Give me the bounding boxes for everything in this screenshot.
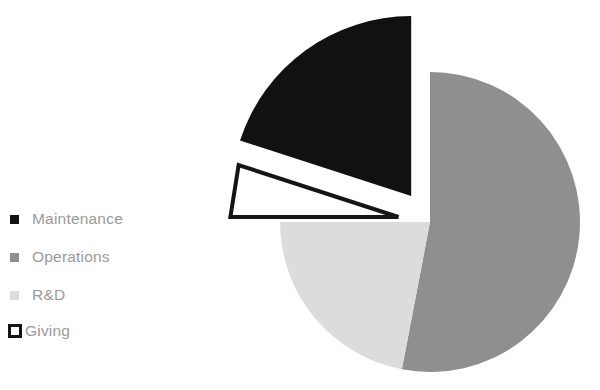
chart-legend: Maintenance Operations R&D Giving [6,200,196,348]
pie-chart: Maintenance Operations R&D Giving [0,0,600,390]
legend-label-rd: R&D [32,286,65,304]
legend-item-operations[interactable]: Operations [6,238,196,276]
legend-item-maintenance[interactable]: Maintenance [6,200,196,238]
legend-swatch-maintenance-icon [10,215,19,224]
pie-slice-maintenance[interactable] [240,16,411,196]
legend-label-giving: Giving [25,322,70,340]
legend-swatch-operations-icon [10,253,19,262]
legend-label-maintenance: Maintenance [32,210,123,228]
legend-swatch-giving-icon [8,324,22,338]
legend-item-giving[interactable]: Giving [6,314,196,348]
legend-item-rd[interactable]: R&D [6,276,196,314]
legend-label-operations: Operations [32,248,110,266]
legend-swatch-rd-icon [10,291,19,300]
